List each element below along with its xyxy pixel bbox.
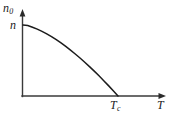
x-critical-label-symbol: T	[110, 98, 117, 112]
x-critical-label-subscript: c	[117, 104, 121, 113]
y-axis-label-subscript: 0	[9, 7, 13, 16]
chart-figure: n0 n Tc T	[0, 0, 172, 117]
x-axis-label: T	[157, 99, 164, 111]
plot-canvas	[0, 0, 172, 117]
y-axis-label: n0	[3, 2, 13, 14]
condensate-fraction-curve	[23, 25, 118, 96]
x-critical-temperature-label: Tc	[110, 99, 120, 111]
y-value-label: n	[10, 19, 16, 31]
y-axis-arrow-icon	[20, 9, 26, 17]
